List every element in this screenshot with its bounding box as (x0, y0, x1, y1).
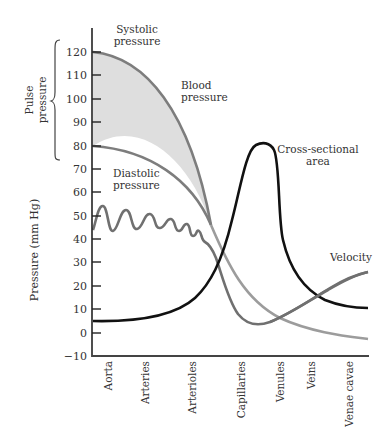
blood-pressure-label-line2: pressure (181, 91, 228, 103)
y-axis-title: Pressure (mm Hg) (28, 199, 41, 301)
pulse-pressure-band (93, 52, 210, 222)
y-tick-label: 20 (73, 280, 87, 293)
category-label-arteries: Arteries (139, 361, 151, 405)
category-label-venules: Venules (274, 361, 286, 403)
systolic-label-line2: pressure (114, 35, 161, 47)
category-label-arterioles: Arterioles (186, 361, 198, 415)
y-tick-label: 0 (80, 327, 87, 340)
cross-sectional-label-line1: Cross-sectional (277, 143, 359, 155)
y-tick-label: 100 (66, 93, 87, 106)
blood-pressure-label-line1: Blood (181, 79, 212, 91)
y-tick-labels: 120 110 100 90 80 70 60 50 40 30 20 10 0… (64, 46, 87, 363)
blood-flow-chart: 120 110 100 90 80 70 60 50 40 30 20 10 0… (0, 0, 387, 430)
category-label-veins: Veins (305, 361, 317, 390)
cross-sectional-label-line2: area (306, 155, 330, 167)
pulse-pressure-label-line2: pressure (36, 77, 48, 124)
y-tick-label: −10 (64, 350, 87, 363)
velocity-label: Velocity (329, 251, 372, 263)
diastolic-label-line2: pressure (113, 179, 160, 191)
diastolic-label-line1: Diastolic (113, 167, 160, 179)
y-tick-label: 40 (73, 233, 87, 246)
y-tick-label: 110 (66, 69, 87, 82)
y-tick-label: 70 (73, 163, 87, 176)
y-tick-label: 80 (73, 140, 87, 153)
y-tick-label: 10 (73, 303, 87, 316)
y-tick-label: 30 (73, 256, 87, 269)
y-tick-label: 60 (73, 186, 87, 199)
y-tick-label: 50 (73, 210, 87, 223)
x-category-labels: Aorta Arteries Arterioles Capillaries Ve… (102, 361, 355, 428)
pulse-pressure-brace (51, 40, 60, 160)
y-tick-label: 90 (73, 116, 87, 129)
category-label-venae-cavae: Venae cavae (343, 361, 355, 428)
pulse-pressure-label-line1: Pulse (23, 86, 35, 115)
systolic-label-line1: Systolic (116, 23, 158, 35)
y-tick-label: 120 (66, 46, 87, 59)
category-label-aorta: Aorta (102, 361, 114, 391)
category-label-capillaries: Capillaries (235, 361, 247, 418)
